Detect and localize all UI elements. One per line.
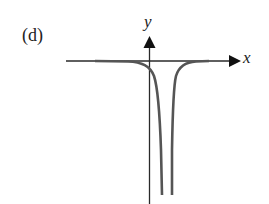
- y-axis-arrow-icon: [144, 36, 156, 48]
- y-axis-label: y: [144, 12, 152, 32]
- graph-figure: (d) y x: [0, 0, 269, 204]
- panel-label: (d): [22, 25, 43, 46]
- x-axis-arrow-icon: [229, 55, 241, 67]
- x-axis-label: x: [243, 48, 251, 68]
- curve-left-branch: [95, 61, 162, 195]
- curve-right-branch: [172, 61, 209, 195]
